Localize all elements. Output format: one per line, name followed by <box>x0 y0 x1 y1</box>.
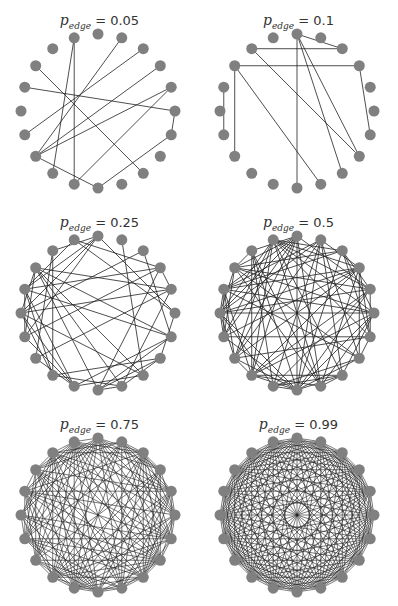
graph-node <box>69 234 80 245</box>
graph-edge <box>36 87 172 156</box>
graph-edge <box>21 313 53 375</box>
graph-node <box>19 129 30 140</box>
graph-node <box>218 533 229 544</box>
graph-node <box>268 234 279 245</box>
graph-node <box>218 82 229 93</box>
graph-node <box>246 572 257 583</box>
graph-node <box>218 486 229 497</box>
graph-node <box>354 464 365 475</box>
graph-edge <box>36 156 98 188</box>
graph-node <box>337 245 348 256</box>
graph-node <box>30 555 41 566</box>
graph-node <box>246 168 257 179</box>
graph-edge <box>36 268 144 376</box>
graph-edge <box>36 66 161 157</box>
graph-node <box>166 284 177 295</box>
graph-panel-2: pedge = 0.25 <box>0 202 199 404</box>
graph-edge <box>220 236 297 313</box>
graph-edge <box>235 268 321 386</box>
graph-node <box>47 245 58 256</box>
graph-node <box>166 129 177 140</box>
graph-edge <box>53 38 74 174</box>
graph-edge <box>25 236 98 337</box>
graph-node <box>19 82 30 93</box>
graph-node <box>116 234 127 245</box>
graph-node <box>155 151 166 162</box>
graph-node <box>315 436 326 447</box>
panel-title: pedge = 0.1 <box>199 12 398 31</box>
graph-node <box>19 284 30 295</box>
graph-node <box>69 381 80 392</box>
graph-node <box>116 436 127 447</box>
graph-panel-4: pedge = 0.75 <box>0 404 199 606</box>
graph-edge <box>53 375 122 386</box>
graph-node <box>138 245 149 256</box>
graph-node <box>354 262 365 273</box>
graph-node <box>69 583 80 594</box>
graph-node <box>16 510 27 521</box>
graph-node <box>337 168 348 179</box>
graph-node <box>155 353 166 364</box>
graph-node <box>229 555 240 566</box>
graph-node <box>292 385 303 396</box>
graph-node <box>166 331 177 342</box>
graph-edge <box>235 358 297 390</box>
graph-node <box>218 284 229 295</box>
graph-node <box>315 583 326 594</box>
graph-node <box>215 510 226 521</box>
graph-node <box>365 82 376 93</box>
graph-node <box>246 447 257 458</box>
graph-edge <box>252 251 297 390</box>
graph-node <box>365 284 376 295</box>
graph-edge <box>297 34 342 173</box>
graph-node <box>19 486 30 497</box>
graph-node <box>354 353 365 364</box>
graph-node <box>93 385 104 396</box>
graph-panel-3: pedge = 0.5 <box>199 202 398 404</box>
graph-node <box>337 370 348 381</box>
graph-edge <box>220 289 370 313</box>
graph-edge <box>25 539 143 578</box>
graph-node <box>369 510 380 521</box>
graph-node <box>116 583 127 594</box>
graph-edge <box>36 470 172 539</box>
graph-node <box>268 436 279 447</box>
graph-node <box>30 60 41 71</box>
graph-edge <box>53 453 98 592</box>
graph-node <box>354 151 365 162</box>
graph-node <box>170 510 181 521</box>
panel-title: pedge = 0.25 <box>0 214 199 233</box>
graph-edge <box>220 313 297 390</box>
graph-node <box>246 370 257 381</box>
graph-node <box>365 129 376 140</box>
graph-panel-1: pedge = 0.1 <box>199 0 398 202</box>
graph-node <box>365 331 376 342</box>
panel-title: pedge = 0.75 <box>0 416 199 435</box>
graph-node <box>138 168 149 179</box>
graph-node <box>69 32 80 43</box>
graph-edge <box>297 34 359 156</box>
graph-node <box>30 262 41 273</box>
graph-node <box>315 32 326 43</box>
graph-edge <box>25 268 36 337</box>
graph-node <box>337 447 348 458</box>
graph-node <box>246 245 257 256</box>
graph-node <box>155 464 166 475</box>
graph-node <box>47 43 58 54</box>
graph-edge <box>342 313 374 375</box>
graph-node <box>229 60 240 71</box>
graph-node <box>246 43 257 54</box>
graph-node <box>166 82 177 93</box>
graph-edge <box>252 268 360 376</box>
graph-node <box>354 60 365 71</box>
graph-node <box>69 179 80 190</box>
graph-node <box>229 262 240 273</box>
graph-node <box>47 447 58 458</box>
graph-edge <box>25 49 143 135</box>
graph-node <box>365 486 376 497</box>
graph-node <box>354 555 365 566</box>
graph-node <box>292 587 303 598</box>
graph-node <box>47 572 58 583</box>
graph-node <box>116 381 127 392</box>
panel-title: pedge = 0.99 <box>199 416 398 435</box>
